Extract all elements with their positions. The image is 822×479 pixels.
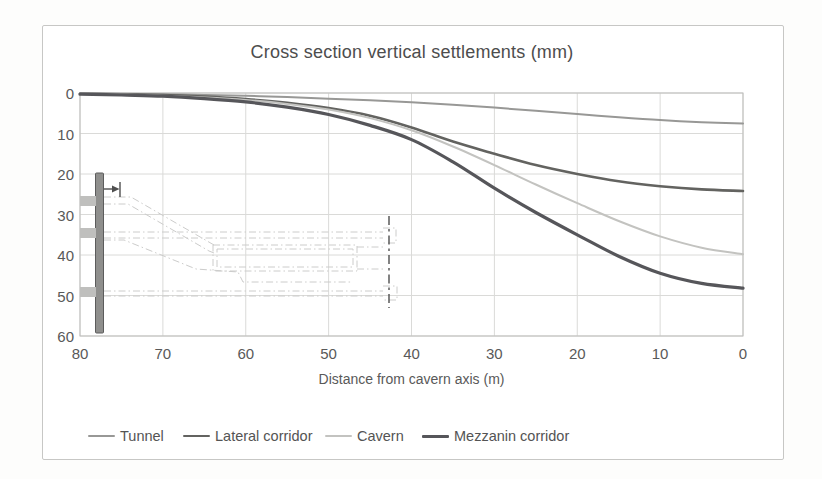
scanned-chart-page: Cross section vertical settlements (mm): [0, 0, 822, 479]
y-tick-label: 50: [40, 287, 74, 304]
plot-area: [0, 0, 822, 479]
diaphragm-wall: [96, 173, 104, 333]
cavern-extension-lines: [357, 247, 384, 269]
anchor-stub: [80, 196, 96, 206]
wall-anchor-stubs: [80, 196, 96, 297]
y-tick-label: 20: [40, 166, 74, 183]
x-tick-label: 30: [474, 345, 514, 362]
y-tick-label: 0: [40, 85, 74, 102]
x-tick-label: 80: [60, 345, 100, 362]
inset-cross-section-diagram: [80, 173, 397, 333]
middle-slope-line: [104, 240, 352, 282]
x-tick-label: 0: [723, 345, 763, 362]
x-tick-label: 60: [226, 345, 266, 362]
x-axis-title: Distance from cavern axis (m): [80, 371, 743, 387]
cavern-inner-outline: [217, 249, 353, 267]
anchor-stub: [80, 287, 96, 297]
arrow-head-icon: [112, 186, 120, 193]
x-tick-label: 50: [309, 345, 349, 362]
x-tick-label: 10: [640, 345, 680, 362]
structure-outline-sketch: [104, 197, 397, 300]
mezzanine-level-lines: [104, 232, 383, 238]
x-tick-label: 20: [557, 345, 597, 362]
offset-arrow: [104, 182, 120, 197]
y-tick-label: 10: [40, 125, 74, 142]
lower-end-notch: [383, 286, 397, 300]
x-tick-label: 70: [143, 345, 183, 362]
y-tick-label: 60: [40, 328, 74, 345]
upper-slope-line-2: [104, 204, 214, 253]
x-tick-label: 40: [392, 345, 432, 362]
y-tick-label: 40: [40, 247, 74, 264]
anchor-stub: [80, 228, 96, 238]
y-tick-label: 30: [40, 206, 74, 223]
